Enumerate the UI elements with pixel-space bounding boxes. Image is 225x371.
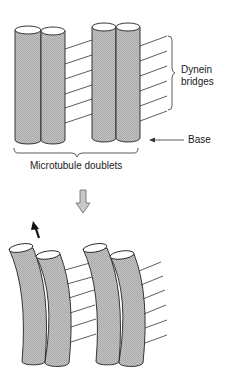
dynein-label-line1: Dynein xyxy=(181,64,212,75)
dynein-bridges-middle xyxy=(65,40,92,123)
bent-doublets-panel xyxy=(8,221,167,367)
doublets-label: Microtubule doublets xyxy=(30,160,122,171)
base-label: Base xyxy=(188,134,211,145)
dynein-bridges-right xyxy=(140,36,167,121)
dynein-brace xyxy=(168,36,175,110)
up-arrow-icon xyxy=(31,221,39,238)
dynein-label-line2: bridges xyxy=(181,76,214,87)
right-bent-doublet xyxy=(82,242,145,367)
left-doublet xyxy=(15,26,65,144)
left-bent-doublet xyxy=(8,242,71,367)
dynein-sliding-diagram: Dynein bridges Base Microtubule doublets xyxy=(0,0,225,371)
right-doublet xyxy=(92,23,140,142)
left-arrow-icon xyxy=(149,138,184,143)
doublets-brace xyxy=(14,148,138,157)
down-arrow-icon xyxy=(76,190,90,213)
straight-doublets-panel: Dynein bridges Base Microtubule doublets xyxy=(14,23,214,171)
